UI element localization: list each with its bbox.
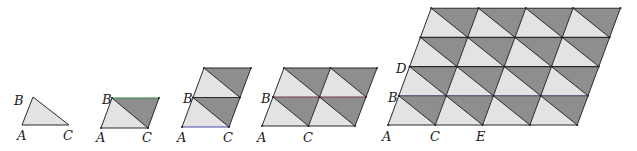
triangle-abc — [22, 97, 69, 125]
vertex-dot — [283, 67, 285, 69]
vertex-dot — [250, 67, 252, 69]
triangle-tiling-diagram: BACBACBACBACDBACE — [0, 0, 637, 151]
vertex-dot — [576, 124, 578, 126]
vertex-dot — [561, 36, 563, 38]
figure-2: BAC — [95, 92, 160, 145]
vertex-label-b: B — [13, 93, 24, 108]
vertex-label-c: C — [430, 129, 440, 144]
figure-5: DBACE — [381, 7, 622, 144]
vertex-dot — [398, 95, 400, 97]
vertex-label-a: A — [176, 130, 186, 145]
vertex-dot — [329, 67, 331, 69]
vertex-label-c: C — [303, 130, 313, 145]
vertex-dot — [354, 125, 356, 127]
vertex-dot — [261, 125, 263, 127]
vertex-dot — [492, 95, 494, 97]
vertex-dot — [409, 66, 411, 68]
vertex-label-b: B — [387, 90, 398, 105]
vertex-dot — [456, 66, 458, 68]
vertex-dot — [272, 96, 274, 98]
vertex-label-b: B — [260, 91, 271, 106]
figure-3: BAC — [176, 67, 252, 145]
vertex-dot — [430, 7, 432, 9]
vertex-label-d: D — [395, 61, 407, 76]
vertex-dot — [181, 126, 183, 128]
vertex-dot — [387, 124, 389, 126]
vertex-dot — [550, 66, 552, 68]
vertex-label-c: C — [223, 130, 233, 145]
vertex-dot — [318, 96, 320, 98]
vertex-dot — [525, 7, 527, 9]
vertex-label-a: A — [381, 129, 391, 144]
vertex-dot — [147, 127, 149, 129]
vertex-dot — [609, 36, 611, 38]
vertex-label-a: A — [95, 130, 105, 145]
vertex-dot — [307, 125, 309, 127]
vertex-dot — [445, 95, 447, 97]
vertex-dot — [419, 36, 421, 38]
vertex-dot — [376, 67, 378, 69]
vertex-label-a: A — [16, 128, 26, 143]
vertex-dot — [228, 126, 230, 128]
vertex-label-b: B — [182, 91, 193, 106]
vertex-dot — [598, 66, 600, 68]
vertex-dot — [100, 127, 102, 129]
vertex-dot — [587, 95, 589, 97]
vertex-label-b: B — [101, 92, 112, 107]
vertex-dot — [572, 7, 574, 9]
vertex-dot — [467, 36, 469, 38]
vertex-dot — [239, 96, 241, 98]
vertex-dot — [514, 36, 516, 38]
vertex-label-e: E — [475, 129, 486, 144]
figure-4: BAC — [256, 67, 378, 145]
vertex-dot — [529, 124, 531, 126]
vertex-dot — [158, 97, 160, 99]
vertex-dot — [503, 66, 505, 68]
vertex-dot — [203, 67, 205, 69]
vertex-label-c: C — [142, 130, 152, 145]
vertex-dot — [434, 124, 436, 126]
vertex-dot — [482, 124, 484, 126]
figure-1: BAC — [13, 93, 73, 143]
vertex-label-c: C — [63, 128, 73, 143]
vertex-dot — [477, 7, 479, 9]
vertex-dot — [540, 95, 542, 97]
vertex-label-a: A — [256, 130, 266, 145]
vertex-dot — [619, 7, 621, 9]
vertex-dot — [365, 96, 367, 98]
